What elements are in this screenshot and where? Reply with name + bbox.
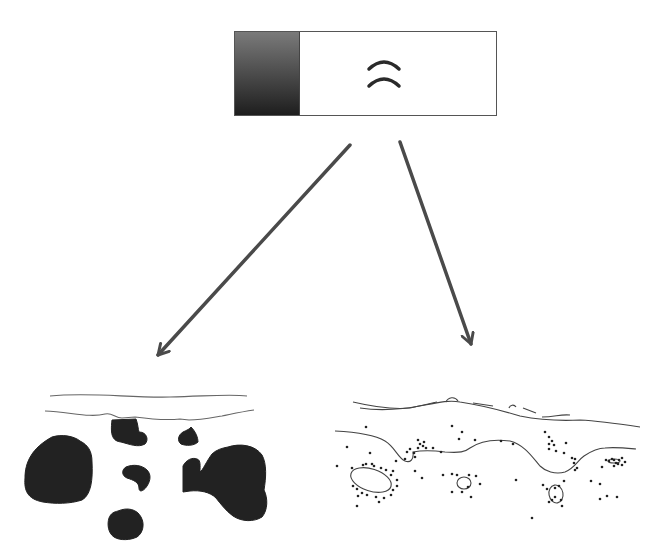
dot bbox=[590, 480, 593, 483]
dot bbox=[563, 452, 566, 455]
dot bbox=[479, 483, 482, 486]
dot bbox=[352, 485, 355, 488]
dot bbox=[417, 447, 420, 450]
dot bbox=[356, 505, 359, 508]
dot bbox=[371, 463, 374, 466]
dot bbox=[357, 495, 360, 498]
dot bbox=[414, 456, 417, 459]
right-arrow-icon bbox=[400, 142, 471, 344]
dot bbox=[351, 467, 354, 470]
dot bbox=[613, 465, 616, 468]
dot bbox=[406, 451, 409, 454]
dot bbox=[601, 466, 604, 469]
dot bbox=[544, 431, 547, 434]
outline-line bbox=[360, 401, 640, 427]
dot bbox=[375, 496, 378, 499]
outline-ellipse bbox=[548, 484, 565, 504]
dot bbox=[563, 480, 566, 483]
dot bbox=[468, 474, 471, 477]
dot bbox=[500, 440, 503, 443]
dot bbox=[451, 425, 454, 428]
dot bbox=[356, 488, 359, 491]
outline-line bbox=[542, 415, 570, 417]
dot bbox=[515, 479, 518, 482]
dot bbox=[461, 431, 464, 434]
dot bbox=[390, 474, 393, 477]
dot bbox=[451, 491, 454, 494]
dot bbox=[531, 517, 534, 520]
solid-blob bbox=[108, 509, 143, 540]
outline-line bbox=[509, 405, 516, 408]
dot bbox=[392, 470, 395, 473]
dot bbox=[378, 501, 381, 504]
solid-blob bbox=[25, 436, 92, 504]
dot bbox=[565, 442, 568, 445]
solid-blob bbox=[183, 445, 267, 521]
dot bbox=[423, 441, 426, 444]
dot bbox=[365, 463, 368, 466]
dot bbox=[456, 474, 459, 477]
dot bbox=[440, 451, 443, 454]
dot bbox=[474, 439, 477, 442]
dot bbox=[621, 464, 624, 467]
dot bbox=[616, 496, 619, 499]
left-arrow-icon bbox=[158, 145, 350, 355]
dot bbox=[571, 457, 574, 460]
outline-line bbox=[335, 431, 636, 473]
dot bbox=[621, 457, 624, 460]
dot bbox=[361, 492, 364, 495]
dot bbox=[404, 458, 407, 461]
dot bbox=[576, 467, 579, 470]
dot bbox=[409, 448, 412, 451]
dot bbox=[432, 447, 435, 450]
dot bbox=[396, 485, 399, 488]
dot bbox=[551, 440, 554, 443]
dot bbox=[421, 477, 424, 480]
dot bbox=[574, 458, 577, 461]
dot bbox=[554, 496, 557, 499]
dot bbox=[548, 501, 551, 504]
dot bbox=[413, 452, 416, 455]
arc-stroke bbox=[369, 62, 399, 69]
dot bbox=[512, 443, 515, 446]
dot bbox=[414, 470, 417, 473]
solid-blob bbox=[123, 465, 150, 491]
dot bbox=[422, 445, 425, 448]
diagram-canvas bbox=[0, 0, 656, 555]
dot bbox=[599, 498, 602, 501]
dot bbox=[554, 487, 557, 490]
dot bbox=[390, 494, 393, 497]
dot bbox=[336, 465, 339, 468]
dot bbox=[561, 505, 564, 508]
outline-ellipse bbox=[348, 463, 395, 497]
dot bbox=[548, 436, 551, 439]
dot bbox=[555, 450, 558, 453]
dot bbox=[373, 465, 376, 468]
dot bbox=[605, 459, 608, 462]
dot bbox=[346, 446, 349, 449]
dot bbox=[546, 488, 549, 491]
dot bbox=[383, 497, 386, 500]
dot bbox=[558, 485, 561, 488]
dot bbox=[369, 452, 372, 455]
dot bbox=[548, 443, 551, 446]
dot bbox=[395, 460, 398, 463]
dot bbox=[615, 462, 618, 465]
line-and-dot-pattern bbox=[335, 398, 640, 520]
dot bbox=[380, 467, 383, 470]
dot bbox=[366, 494, 369, 497]
dot bbox=[461, 491, 464, 494]
dot bbox=[458, 438, 461, 441]
dot bbox=[573, 462, 576, 465]
arc-stroke bbox=[369, 79, 399, 86]
dot bbox=[574, 469, 577, 472]
dot bbox=[425, 447, 428, 450]
surface-line bbox=[50, 395, 247, 398]
dot bbox=[475, 475, 478, 478]
dot bbox=[417, 439, 420, 442]
dot bbox=[442, 474, 445, 477]
dot bbox=[618, 459, 621, 462]
dot bbox=[606, 495, 609, 498]
dot bbox=[560, 499, 563, 502]
dot bbox=[608, 460, 611, 463]
